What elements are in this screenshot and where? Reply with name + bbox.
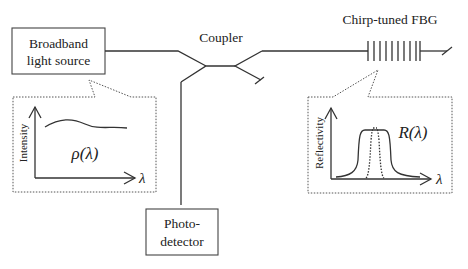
fbg-inset-frame <box>308 70 452 193</box>
fbg-label: Chirp-tuned FBG <box>343 12 438 27</box>
coupler-right-junction <box>235 51 262 80</box>
photodetector: Photo- detector <box>146 209 218 255</box>
source-spectrum-label: ρ(λ) <box>71 144 99 163</box>
detector-label-line1: Photo- <box>164 216 201 231</box>
fiber-source-to-coupler <box>105 51 206 66</box>
fbg-reflectivity-label: R(λ) <box>397 123 427 142</box>
chirp-tuned-fbg-grating <box>368 41 452 61</box>
narrow-band-left-dotted <box>366 130 373 178</box>
coupler-label: Coupler <box>199 30 243 45</box>
source-label-line1: Broadband <box>29 36 88 51</box>
source-spectrum-curve <box>45 120 127 128</box>
narrow-band-right-dotted <box>377 130 384 178</box>
reflectivity-axis-label: Reflectivity <box>313 117 325 169</box>
fbg-sensor-diagram: Broadband light source Coupler Chirp-tun… <box>0 0 468 269</box>
intensity-axis-label: Intensity <box>17 123 29 162</box>
fbg-reflectivity-inset: Reflectivity λ R(λ) <box>308 70 452 193</box>
fbg-lambda-symbol: λ <box>435 171 443 187</box>
coupler-left-junction <box>181 66 235 82</box>
detector-label-line2: detector <box>160 234 204 249</box>
broadband-light-source: Broadband light source <box>12 28 105 74</box>
source-label-line2: light source <box>27 53 90 68</box>
source-spectrum-inset: Intensity λ ρ(λ) <box>13 80 156 192</box>
source-lambda-symbol: λ <box>138 170 146 186</box>
